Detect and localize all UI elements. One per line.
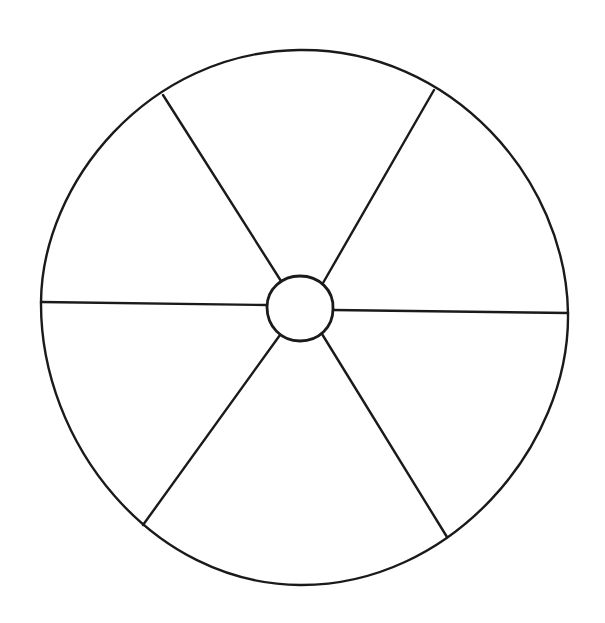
wheel-diagram-canvas xyxy=(0,0,605,623)
wheel-diagram-svg xyxy=(0,0,605,623)
